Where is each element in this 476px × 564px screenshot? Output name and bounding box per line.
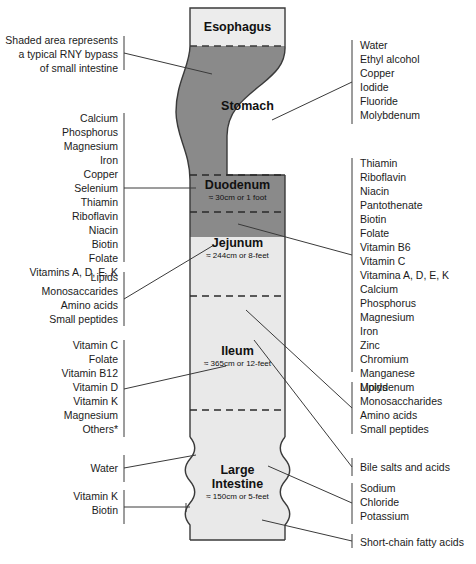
list-item: Chloride xyxy=(360,495,476,509)
list-item: Fluoride xyxy=(360,94,476,108)
annotation-bile-salts: Bile salts and acids xyxy=(360,460,476,474)
list-item: Pantothenate xyxy=(360,198,476,212)
list-item: Biotin xyxy=(360,212,476,226)
list-item: Biotin xyxy=(0,503,118,517)
annotation-colon-water: Water xyxy=(0,461,118,475)
organ-label-ileum: Ileum ≈ 365cm or 12-feet xyxy=(190,344,285,369)
list-item: Vitamin D xyxy=(0,380,118,394)
list-item: Copper xyxy=(360,66,476,80)
list-item: Lipids xyxy=(0,270,118,284)
jejunum-length: ≈ 244cm or 8-feet xyxy=(190,251,285,261)
list-item: Folate xyxy=(0,251,118,265)
list-item: Amino acids xyxy=(360,408,476,422)
note-line-2: a typical RNY bypass xyxy=(0,47,118,61)
list-item: Vitamina A, D, E, K xyxy=(360,268,476,282)
list-item: Niacin xyxy=(0,223,118,237)
list-item: Zinc xyxy=(360,338,476,352)
organ-label-esophagus: Esophagus xyxy=(190,20,285,34)
list-item: Magnesium xyxy=(0,408,118,422)
list-item: Ethyl alcohol xyxy=(360,52,476,66)
esophagus-name: Esophagus xyxy=(190,20,285,34)
small-intestine-shape xyxy=(190,237,285,437)
list-item: Amino acids xyxy=(0,298,118,312)
list-item: Lipids xyxy=(360,380,476,394)
stomach-name: Stomach xyxy=(200,99,295,113)
annotation-electrolytes: Sodium Chloride Potassium xyxy=(360,481,476,523)
list-item: Monosaccarides xyxy=(0,284,118,298)
ileum-length: ≈ 365cm or 12-feet xyxy=(190,359,285,369)
organ-label-jejunum: Jejunum ≈ 244cm or 8-feet xyxy=(190,236,285,261)
list-item: Bile salts and acids xyxy=(360,460,476,474)
list-item: Small peptides xyxy=(0,312,118,326)
list-item: Magnesium xyxy=(360,310,476,324)
list-item: Folate xyxy=(0,352,118,366)
list-item: Manganese xyxy=(360,366,476,380)
list-item: Calcium xyxy=(360,282,476,296)
list-item: Molybdenum xyxy=(360,108,476,122)
list-item: Selenium xyxy=(0,181,118,195)
list-item: Calcium xyxy=(0,111,118,125)
list-item: Short-chain fatty acids xyxy=(360,535,476,549)
rny-bypass-note: Shaded area represents a typical RNY byp… xyxy=(0,33,118,75)
list-item: Copper xyxy=(0,167,118,181)
large-intestine-name-line2: Intestine xyxy=(190,478,285,492)
list-item: Thiamin xyxy=(360,156,476,170)
list-item: Water xyxy=(0,461,118,475)
organ-label-stomach: Stomach xyxy=(200,99,295,113)
list-item: Riboflavin xyxy=(0,209,118,223)
list-item: Vitamin K xyxy=(0,394,118,408)
list-item: Water xyxy=(360,38,476,52)
ileum-name: Ileum xyxy=(190,344,285,358)
list-item: Others* xyxy=(0,422,118,436)
annotation-jejunum-macronutrients: Lipids Monosaccarides Amino acids Small … xyxy=(0,270,118,326)
list-item: Thiamin xyxy=(0,195,118,209)
list-item: Potassium xyxy=(360,509,476,523)
list-item: Vitamin K xyxy=(0,489,118,503)
list-item: Magnesium xyxy=(0,139,118,153)
list-item: Vitamin B6 xyxy=(360,240,476,254)
note-line-3: of small intestine xyxy=(0,61,118,75)
duodenum-name: Duodenum xyxy=(190,178,285,192)
shaded-bypass-region xyxy=(176,46,285,237)
list-item: Chromium xyxy=(360,352,476,366)
large-intestine-length: ≈ 150cm or 5-feet xyxy=(190,492,285,502)
small-intestine-fill xyxy=(190,237,285,437)
annotation-ileum-macronutrients: Lipids Monosaccharides Amino acids Small… xyxy=(360,380,476,436)
list-item: Small peptides xyxy=(360,422,476,436)
list-item: Riboflavin xyxy=(360,170,476,184)
list-item: Folate xyxy=(360,226,476,240)
nutrient-absorption-diagram: Esophagus Stomach Duodenum ≈ 30cm or 1 f… xyxy=(0,0,476,564)
list-item: Phosphorus xyxy=(360,296,476,310)
upper-tract-shape xyxy=(176,46,285,237)
note-line-1: Shaded area represents xyxy=(0,33,118,47)
list-item: Iron xyxy=(0,153,118,167)
list-item: Niacin xyxy=(360,184,476,198)
list-item: Iron xyxy=(360,324,476,338)
organ-label-duodenum: Duodenum ≈ 30cm or 1 foot xyxy=(190,178,285,203)
annotation-colon-vitamins: Vitamin K Biotin xyxy=(0,489,118,517)
list-item: Phosphorus xyxy=(0,125,118,139)
list-item: Iodide xyxy=(360,80,476,94)
list-item: Vitamin C xyxy=(360,254,476,268)
annotation-ileum-nutrients: Vitamin C Folate Vitamin B12 Vitamin D V… xyxy=(0,338,118,436)
annotation-short-chain-fatty-acids: Short-chain fatty acids xyxy=(360,535,476,549)
annotation-jejunum-micronutrients: Thiamin Riboflavin Niacin Pantothenate B… xyxy=(360,156,476,394)
list-item: Sodium xyxy=(360,481,476,495)
list-item: Vitamin B12 xyxy=(0,366,118,380)
list-item: Vitamin C xyxy=(0,338,118,352)
annotation-stomach-absorption: Water Ethyl alcohol Copper Iodide Fluori… xyxy=(360,38,476,122)
list-item: Biotin xyxy=(0,237,118,251)
list-item: Monosaccharides xyxy=(360,394,476,408)
organ-label-large-intestine: Large Intestine ≈ 150cm or 5-feet xyxy=(190,464,285,502)
large-intestine-name-line1: Large xyxy=(190,464,285,478)
jejunum-name: Jejunum xyxy=(190,236,285,250)
annotation-duodenum-nutrients: Calcium Phosphorus Magnesium Iron Copper… xyxy=(0,111,118,279)
duodenum-length: ≈ 30cm or 1 foot xyxy=(190,193,285,203)
